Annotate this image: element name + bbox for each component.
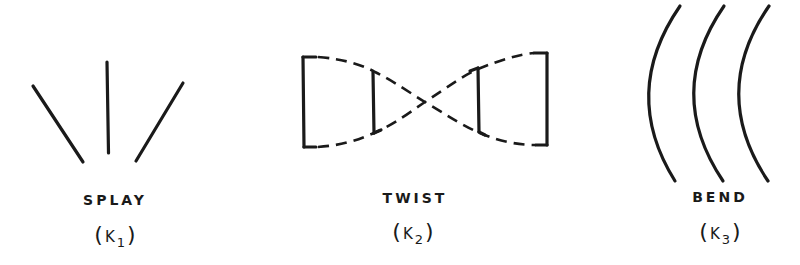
twist-dashed-curve-top-left-to-bottom-right [318,57,536,145]
bend-arc-1 [649,6,680,181]
bend-label: BEND [675,189,765,205]
twist-constant: (K2) [368,219,458,244]
constant-symbol: K [105,228,116,246]
twist-rod-outer-left [303,57,304,147]
bend-arc-3 [739,6,769,181]
close-paren: ) [730,219,743,244]
constant-index: 2 [415,232,423,247]
close-paren: ) [125,222,138,247]
bend-arc-2 [694,6,724,181]
splay-label: SPLAY [70,192,160,208]
splay-rod-left [33,86,83,162]
splay-rod-center [107,62,109,153]
constant-index: 3 [722,232,730,247]
twist-label: TWIST [370,190,460,206]
splay-constant: (K1) [70,222,160,247]
twist-rod-inner-right [478,68,479,132]
constant-symbol: K [710,225,721,243]
close-paren: ) [423,219,436,244]
twist-rod-inner-left [373,72,374,133]
bend-constant: (K3) [675,219,765,244]
bend-figure [649,6,769,181]
splay-rod-right [136,83,183,161]
constant-symbol: K [403,225,414,243]
constant-index: 1 [117,235,125,250]
twist-dashed-curve-bottom-left-to-top-right [318,53,534,147]
open-paren: ( [697,219,710,244]
splay-figure [33,62,183,162]
open-paren: ( [390,219,403,244]
open-paren: ( [92,222,105,247]
twist-figure [303,53,547,147]
